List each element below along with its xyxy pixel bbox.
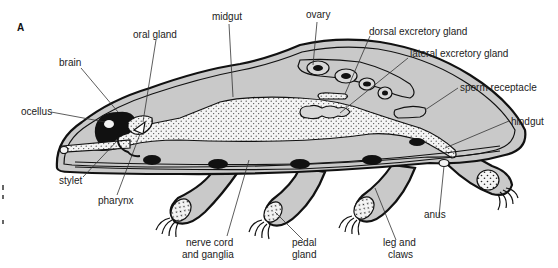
tardigrade-diagram: A [0, 0, 558, 268]
label-nerve-cord-2: and ganglia [182, 249, 234, 260]
label-hindgut: hindgut [511, 116, 544, 127]
leg-1 [156, 168, 238, 237]
page-edge-mark [2, 220, 4, 224]
label-pharynx: pharynx [98, 195, 134, 206]
label-oral-gland: oral gland [133, 29, 177, 40]
label-leg-claws-1: leg and [383, 237, 416, 248]
label-midgut: midgut [212, 11, 242, 22]
label-pedal-gland-2: gland [292, 249, 316, 260]
label-nerve-cord-1: nerve cord [186, 237, 233, 248]
leg-3 [339, 165, 415, 235]
label-anus: anus [424, 209, 446, 220]
sperm-receptacle [394, 106, 426, 118]
ocellus-shape [104, 120, 114, 128]
dorsal-excretory-gland [318, 93, 348, 99]
page-edge-mark [2, 185, 4, 190]
label-leg-claws-2: claws [388, 249, 413, 260]
label-ocellus: ocellus [21, 106, 52, 117]
page-edge-mark [2, 195, 4, 199]
label-stylet: stylet [59, 175, 83, 186]
label-dorsal-excretory-gland: dorsal excretory gland [369, 26, 467, 37]
label-pedal-gland-1: pedal [292, 237, 316, 248]
panel-label: A [17, 22, 24, 33]
anus-marker [439, 160, 449, 167]
label-sperm-receptacle: sperm receptacle [460, 82, 537, 93]
leg-2 [249, 168, 325, 239]
label-ovary: ovary [306, 9, 330, 20]
label-brain: brain [59, 57, 81, 68]
label-lateral-excretory-gland: lateral excretory gland [410, 48, 508, 59]
lateral-excretory-gland [300, 105, 350, 118]
